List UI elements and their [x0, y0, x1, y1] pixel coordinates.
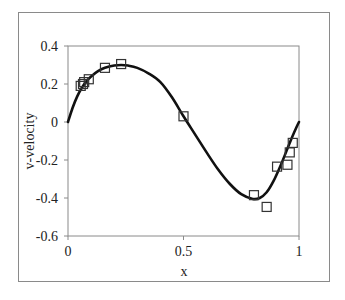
y-tick-label: 0.2 — [41, 77, 59, 92]
y-axis-title: v-velocity — [22, 113, 37, 170]
x-tick-label: 0 — [65, 244, 72, 259]
x-axis-title: x — [181, 264, 188, 279]
y-tick-label: -0.2 — [36, 153, 58, 168]
y-tick-label: -0.6 — [36, 229, 58, 244]
x-tick-label: 1 — [296, 244, 303, 259]
axes: 0.40.20-0.2-0.4-0.600.51 — [36, 39, 303, 259]
data-point-square — [262, 202, 271, 211]
solution-curve — [68, 65, 299, 199]
curve-path — [68, 65, 299, 199]
y-tick-label: 0 — [51, 115, 58, 130]
x-tick-label: 0.5 — [175, 244, 193, 259]
y-tick-label: 0.4 — [41, 39, 59, 54]
reference-markers — [76, 60, 297, 212]
y-tick-label: -0.4 — [36, 191, 58, 206]
data-point-square — [283, 160, 292, 169]
chart-svg: 0.40.20-0.2-0.4-0.600.51 x v-velocity — [0, 0, 345, 300]
plot-area — [68, 46, 299, 236]
